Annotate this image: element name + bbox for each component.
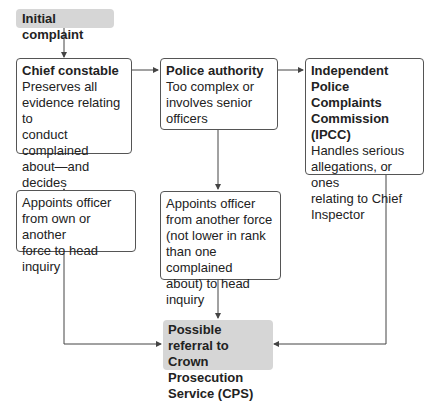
appoint-own-body: Appoints officer from own or another for… [22, 195, 130, 275]
police-authority-title: Police authority [166, 63, 272, 79]
appoint-other-body: Appoints officer from another force (not… [166, 196, 275, 308]
node-initial-complaint: Initial complaint [16, 9, 114, 28]
cps-label: Possible referral to Crown Prosecution S… [168, 322, 268, 402]
police-authority-body: Too complex or involves senior officers [166, 79, 272, 127]
ipcc-title: Independent Police Complaints Commission… [311, 63, 418, 143]
chief-constable-body: Preserves all evidence relating to condu… [22, 79, 126, 207]
chief-constable-title: Chief constable [22, 63, 126, 79]
initial-complaint-label: Initial complaint [22, 11, 108, 43]
node-appoint-other-force: Appoints officer from another force (not… [160, 191, 281, 280]
node-appoint-own-force: Appoints officer from own or another for… [16, 190, 136, 252]
node-cps: Possible referral to Crown Prosecution S… [163, 320, 273, 370]
node-police-authority: Police authority Too complex or involves… [160, 58, 278, 130]
ipcc-body: Handles serious allegations, or ones rel… [311, 143, 418, 223]
node-chief-constable: Chief constable Preserves all evidence r… [16, 58, 132, 154]
node-ipcc: Independent Police Complaints Commission… [305, 58, 424, 175]
